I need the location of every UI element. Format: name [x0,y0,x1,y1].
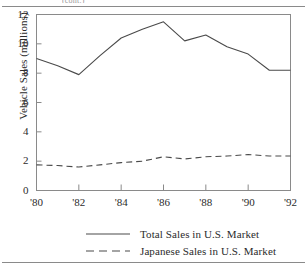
y-tick-label: 12 [9,9,29,20]
legend-swatch-dashed [86,246,130,256]
legend-label-japanese: Japanese Sales in U.S. Market [140,245,276,257]
y-axis-ticks [37,15,42,191]
x-tick-label: '80 [24,197,50,208]
chart-figure: (cont.) Vehicle Sales (millions) 0246810… [0,0,307,269]
x-tick-label: '90 [235,197,261,208]
legend-item-japanese: Japanese Sales in U.S. Market [86,242,276,259]
legend-swatch-solid [86,229,130,239]
x-tick-label: '82 [66,197,92,208]
series-lines [37,22,291,167]
x-axis-ticks [37,185,291,191]
chart-legend: Total Sales in U.S. Market Japanese Sale… [86,225,276,259]
y-tick-label: 0 [9,185,29,196]
series-line [37,22,291,75]
x-tick-label: '92 [278,197,304,208]
series-line [37,155,291,167]
y-tick-label: 2 [9,155,29,166]
legend-item-total: Total Sales in U.S. Market [86,225,276,242]
y-tick-label: 6 [9,97,29,108]
axis-frame [37,15,291,191]
y-tick-label: 10 [9,38,29,49]
x-tick-label: '88 [193,197,219,208]
y-tick-label: 4 [9,126,29,137]
x-tick-label: '86 [151,197,177,208]
y-tick-label: 8 [9,67,29,78]
legend-label-total: Total Sales in U.S. Market [140,228,259,240]
x-tick-label: '84 [108,197,134,208]
